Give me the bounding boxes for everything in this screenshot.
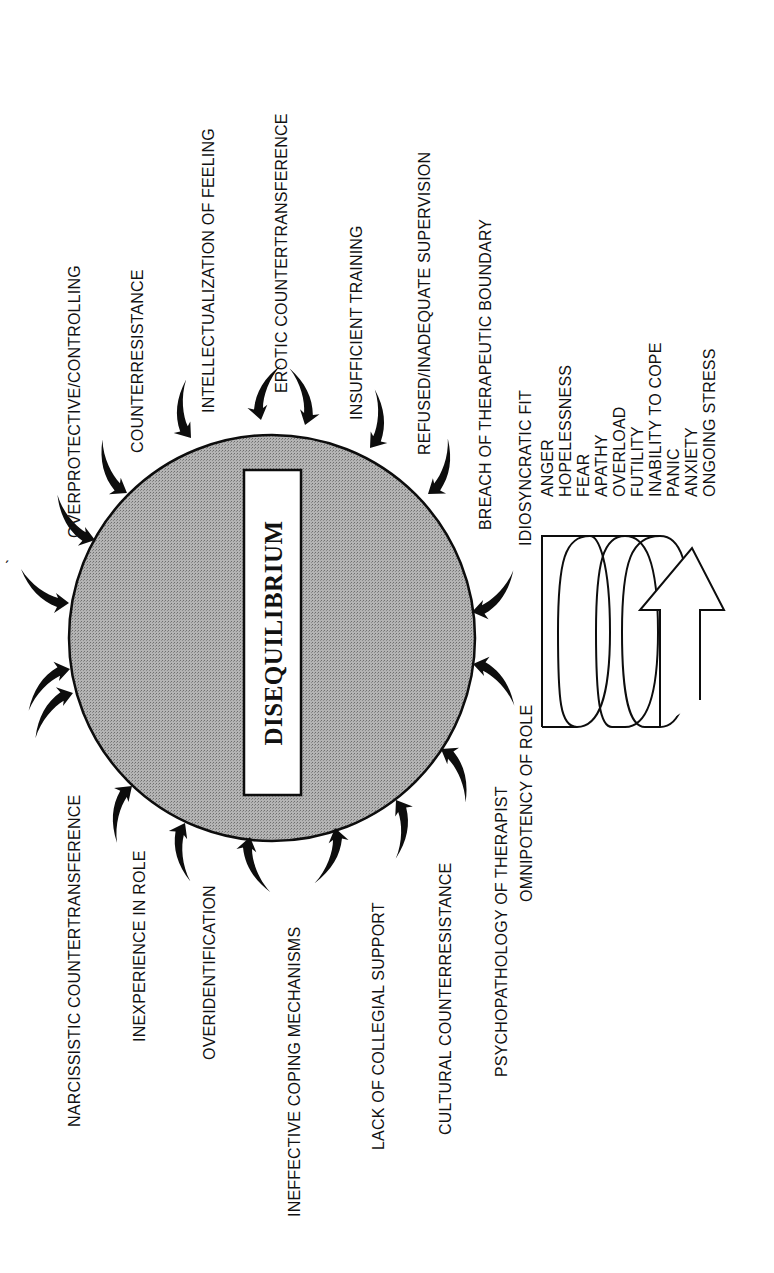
outcome-list: ANGER HOPELESSNESS FEAR APATHY OVERLOAD … xyxy=(539,342,718,497)
outcome-label: FEAR xyxy=(575,454,592,497)
outcome-label: FUTILITY xyxy=(629,426,646,497)
spiral-arrow-icon xyxy=(542,536,724,727)
pressure-label: NARCISSISTIC COUNTERTRANSFERENCE xyxy=(66,795,83,1127)
outcome-label: APATHY xyxy=(593,434,610,497)
pressure-label: IDIOSYNCRATIC FIT xyxy=(517,390,534,546)
center-label: DISEQUILIBRIUM xyxy=(260,520,287,745)
outcome-label: ANGER xyxy=(539,439,556,497)
outcome-label: ONGOING STRESS xyxy=(701,348,718,497)
stray-mark: ˏ xyxy=(4,546,9,563)
pressure-label: COUNTERRESISTANCE xyxy=(129,269,146,453)
pressure-label: CULTURAL COUNTERRESISTANCE xyxy=(437,863,454,1136)
pressure-label: INEFFECTIVE COPING MECHANISMS xyxy=(286,927,303,1217)
arrow-icon xyxy=(467,654,522,706)
outcome-label: INABILITY TO COPE xyxy=(647,342,664,497)
arrow-icon xyxy=(21,659,76,711)
pressure-label: INTELLECTUALIZATION OF FEELING xyxy=(200,128,217,413)
pressure-label: OVERPROTECTIVE/CONTROLLING xyxy=(66,265,83,538)
outcome-label: OVERLOAD xyxy=(611,406,628,497)
pressure-label: EROTIC COUNTERTRANSFERENCE xyxy=(273,113,290,393)
arrow-icon xyxy=(24,683,82,738)
outcome-label: PANIC xyxy=(665,448,682,497)
center-label-box: DISEQUILIBRIUM xyxy=(244,470,301,795)
pressure-label: INEXPERIENCE IN ROLE xyxy=(131,850,148,1042)
pressure-label: OMNIPOTENCY OF ROLE xyxy=(518,705,535,902)
outcome-label: HOPELESSNESS xyxy=(557,365,574,497)
pressure-label: OVERIDENTIFICATION xyxy=(201,885,218,1060)
pressure-label: BREACH OF THERAPEUTIC BOUNDARY xyxy=(477,219,494,530)
outcome-label: ANXIETY xyxy=(683,427,700,497)
pressure-label: INSUFFICIENT TRAINING xyxy=(348,225,365,420)
disequilibrium-diagram: DISEQUILIBRIUM ˏ NARCISSISTIC COUNTERTRA… xyxy=(0,0,774,1273)
arrow-icon xyxy=(21,569,69,613)
arrow-icon xyxy=(228,834,283,892)
pressure-label: PSYCHOPATHOLOGY OF THERAPIST xyxy=(493,786,510,1077)
pressure-label: LACK OF COLLEGIAL SUPPORT xyxy=(370,902,387,1150)
pressure-label: REFUSED/INADEQUATE SUPERVISION xyxy=(416,152,433,455)
